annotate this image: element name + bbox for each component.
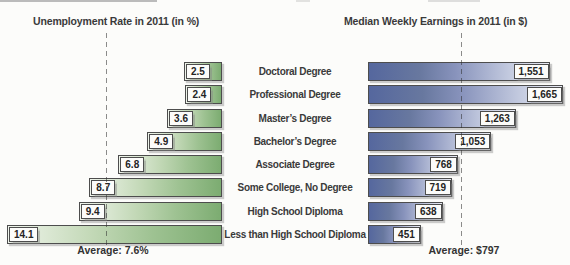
crop-artifact-line [428,0,480,2]
crop-artifact-line [0,0,157,2]
earnings-value-label: 719 [425,180,452,195]
unemployment-bar: 8.7 [89,178,222,197]
row-high-school: 9.4 High School Diploma 638 [0,202,570,221]
row-less-than-high-school: 14.1 Less than High School Diploma 451 [0,225,570,244]
row-some-college: 8.7 Some College, No Degree 719 [0,178,570,197]
row-professional: 2.4 Professional Degree 1,665 [0,85,570,104]
earnings-bar: 719 [368,178,452,197]
unemployment-bar: 6.8 [118,155,222,174]
earnings-bar: 1,053 [368,132,491,151]
unemployment-value-label: 2.5 [186,64,210,79]
chart-figure: Unemployment Rate in 2011 (in %) Median … [0,0,570,265]
earnings-value-label: 638 [415,204,442,219]
category-label: Associate Degree [222,155,368,174]
row-masters: 3.6 Master’s Degree 1,263 [0,109,570,128]
earnings-value-label: 1,551 [514,64,549,79]
unemployment-bar: 3.6 [167,109,222,128]
category-label: Master’s Degree [222,109,368,128]
earnings-bar: 1,551 [368,62,550,81]
left-average-label: Average: 7.6% [77,244,148,256]
unemployment-value-label: 3.6 [169,111,193,126]
right-axis-title: Median Weekly Earnings in 2011 (in $) [344,15,527,27]
category-label: Bachelor’s Degree [222,132,368,151]
row-doctoral: 2.5 Doctoral Degree 1,551 [0,62,570,81]
earnings-value-label: 451 [393,227,420,242]
crop-artifact-line [296,0,310,2]
earnings-value-label: 768 [430,157,457,172]
unemployment-value-label: 9.4 [81,204,105,219]
unemployment-value-label: 4.9 [149,134,173,149]
unemployment-bar: 2.5 [184,62,222,81]
earnings-value-label: 1,263 [480,111,515,126]
left-average-dashed-line [106,33,107,246]
right-average-dashed-line [461,33,462,246]
bar-rows: 2.5 Doctoral Degree 1,551 2.4 Profession… [0,62,570,244]
category-label: High School Diploma [222,202,368,221]
right-average-label: Average: $797 [429,244,500,256]
unemployment-value-label: 2.4 [187,87,211,102]
unemployment-bar: 4.9 [147,132,222,151]
earnings-bar: 638 [368,202,443,221]
left-axis-title: Unemployment Rate in 2011 (in %) [33,15,199,27]
unemployment-value-label: 8.7 [91,180,115,195]
category-label: Less than High School Diploma [222,225,368,244]
category-label: Some College, No Degree [222,178,368,197]
unemployment-value-label: 6.8 [120,157,144,172]
unemployment-value-label: 14.1 [9,227,38,242]
earnings-bar: 1,665 [368,85,563,104]
unemployment-bar: 9.4 [79,202,222,221]
unemployment-bar: 14.1 [7,225,222,244]
category-label: Doctoral Degree [222,62,368,81]
earnings-bar: 1,263 [368,109,516,128]
row-bachelors: 4.9 Bachelor’s Degree 1,053 [0,132,570,151]
row-associate: 6.8 Associate Degree 768 [0,155,570,174]
unemployment-bar: 2.4 [185,85,222,104]
earnings-bar: 451 [368,225,421,244]
category-label: Professional Degree [222,85,368,104]
earnings-bar: 768 [368,155,458,174]
earnings-value-label: 1,665 [527,87,562,102]
